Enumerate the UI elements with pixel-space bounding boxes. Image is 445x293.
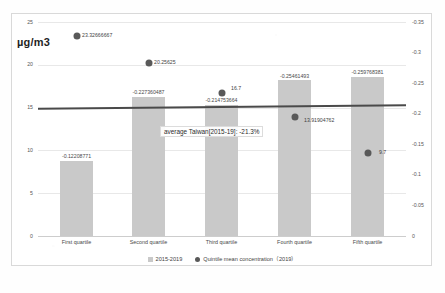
left-axis-tick: 25 (27, 20, 33, 25)
chart-page: µg/m3 25 20 15 10 5 0 -0.35 -0.3 -0.25 (0, 0, 445, 293)
bar-first-quartile[interactable] (60, 161, 93, 236)
marker-fifth-quartile[interactable] (364, 149, 371, 156)
right-axis-tick: -0.1 (412, 172, 421, 177)
legend-label: 2015-2019 (156, 256, 183, 262)
marker-value-label: 20.25625 (154, 60, 176, 65)
right-axis-tick: -0.3 (412, 50, 421, 55)
legend-item-bars[interactable]: 2015-2019 (148, 256, 183, 262)
left-axis-tick: 0 (30, 234, 33, 239)
bar-value-label: -0.25461493 (280, 74, 309, 79)
left-axis-tick: 10 (27, 148, 33, 153)
legend-item-markers[interactable]: Quintile mean concentration（2019） (195, 255, 297, 263)
gridline: 25 (38, 22, 406, 23)
legend-label: Quintile mean concentration（2019） (203, 255, 297, 263)
marker-value-label: 16.7 (231, 86, 241, 91)
bar-third-quartile[interactable] (205, 105, 238, 236)
marker-fourth-quartile[interactable] (291, 113, 298, 120)
right-axis-tick: -0.25 (412, 81, 424, 86)
marker-first-quartile[interactable] (73, 33, 80, 40)
legend-dot-swatch-icon (195, 257, 200, 262)
bar-fifth-quartile[interactable] (351, 77, 384, 236)
right-axis-tick: -0.05 (412, 203, 424, 208)
right-axis-tick: 0 (412, 234, 415, 239)
plot-area: 25 20 15 10 5 0 -0.35 -0.3 -0.25 -0.2 (38, 22, 406, 236)
category-label-first-quartile: First quartile (62, 239, 92, 245)
legend-bar-swatch-icon (148, 257, 153, 262)
marker-value-label: 13.91904762 (304, 118, 334, 123)
trendline-annotation: average Taiwan[2015-19]: -21.3% (160, 126, 263, 137)
bar-value-label: -0.214753664 (205, 98, 237, 103)
category-axis: First quartile Second quartile Third qua… (38, 236, 406, 250)
bar-fourth-quartile[interactable] (278, 80, 311, 236)
right-axis-tick: -0.2 (412, 111, 421, 116)
marker-value-label: 23.32666667 (82, 34, 112, 39)
marker-value-label: 9.7 (379, 150, 386, 155)
bar-second-quartile[interactable] (132, 97, 165, 236)
category-label-fifth-quartile: Fifth quartile (353, 239, 383, 245)
right-axis-tick: -0.15 (412, 142, 424, 147)
category-label-fourth-quartile: Fourth quartile (277, 239, 312, 245)
marker-second-quartile[interactable] (145, 59, 152, 66)
left-axis-tick: 15 (27, 105, 33, 110)
right-axis-tick: -0.35 (412, 20, 424, 25)
bar-value-label: -0.259768381 (351, 70, 383, 75)
left-axis-tick: 5 (30, 191, 33, 196)
category-label-second-quartile: Second quartile (130, 239, 167, 245)
category-label-third-quartile: Third quartile (206, 239, 237, 245)
bar-value-label: -0.227360487 (132, 90, 164, 95)
bar-value-label: -0.12208771 (62, 154, 91, 159)
marker-third-quartile[interactable] (218, 90, 225, 97)
left-axis-tick: 20 (27, 62, 33, 67)
gridline: 20 (38, 65, 406, 66)
chart-legend: 2015-2019 Quintile mean concentration（20… (0, 255, 445, 263)
